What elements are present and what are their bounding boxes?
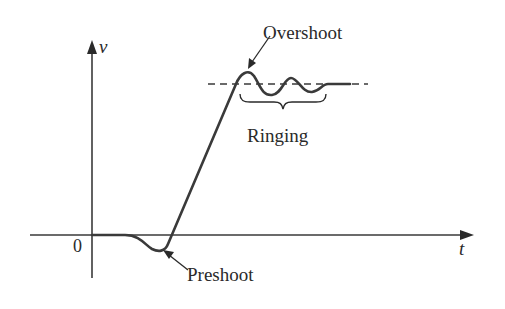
overshoot-label: Overshoot xyxy=(263,22,342,44)
waveform-curve xyxy=(92,72,350,251)
ringing-label: Ringing xyxy=(247,125,308,147)
x-axis-label: t xyxy=(459,238,464,260)
waveform-diagram xyxy=(0,0,505,309)
preshoot-pointer xyxy=(163,250,188,270)
ringing-brace xyxy=(240,94,326,109)
overshoot-arrow-icon xyxy=(248,58,256,69)
y-axis xyxy=(87,40,97,278)
preshoot-label: Preshoot xyxy=(187,264,254,286)
origin-label: 0 xyxy=(73,236,82,257)
y-axis-arrow-icon xyxy=(87,40,97,54)
y-axis-label: v xyxy=(99,36,107,58)
